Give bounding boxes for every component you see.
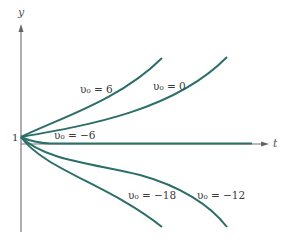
t-axis-arrow-icon: [261, 142, 269, 147]
label-v0-neg6: υ₀ = −6: [54, 129, 96, 141]
chart-canvas: y t 1 υ₀ = 6 υ₀ = 0 υ₀ = −6 υ₀ = −18 υ₀ …: [0, 0, 288, 240]
label-v0-neg18: υ₀ = −18: [128, 189, 176, 201]
label-v0-neg12: υ₀ = −12: [197, 189, 245, 201]
label-v0-6: υ₀ = 6: [80, 83, 113, 95]
curve-v0-6: [21, 58, 162, 137]
t-axis-label: t: [273, 137, 278, 150]
y-axis-arrow-icon: [19, 24, 24, 32]
curve-v0-0: [21, 57, 227, 137]
curve-v0-neg12: [21, 137, 227, 227]
label-v0-0: υ₀ = 0: [153, 80, 186, 92]
y-tick-1: 1: [12, 132, 18, 143]
y-axis-label: y: [17, 6, 25, 19]
